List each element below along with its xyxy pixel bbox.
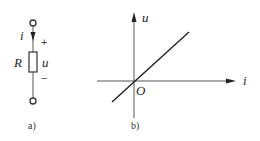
- x-axis-label: i: [243, 74, 247, 87]
- y-axis-label: u: [142, 11, 149, 24]
- minus-sign: −: [41, 73, 47, 84]
- resistor-label: R: [14, 56, 22, 69]
- resistor-icon: [29, 52, 37, 72]
- bottom-terminal-icon: [30, 98, 36, 104]
- current-arrow-icon: [31, 32, 36, 41]
- current-label: i: [20, 29, 24, 42]
- y-axis-arrow-icon: [132, 12, 137, 22]
- x-axis-arrow-icon: [226, 79, 236, 84]
- caption-b: b): [131, 121, 139, 131]
- diagram-canvas: [0, 0, 260, 141]
- ui-characteristic-graph: [97, 12, 236, 118]
- resistor-circuit: [29, 20, 37, 104]
- plus-sign: +: [41, 37, 47, 48]
- caption-a: a): [28, 121, 36, 131]
- voltage-label: u: [42, 56, 49, 69]
- top-terminal-icon: [30, 20, 36, 26]
- characteristic-line: [112, 32, 189, 102]
- origin-label: O: [136, 84, 145, 97]
